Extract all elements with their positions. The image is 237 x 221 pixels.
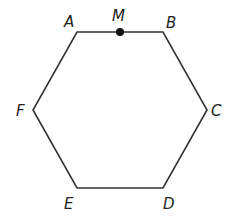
vertex-label-A: A xyxy=(63,13,74,31)
vertex-label-B: B xyxy=(166,14,176,32)
point-M xyxy=(116,28,124,36)
vertex-label-D: D xyxy=(163,195,175,213)
vertex-label-F: F xyxy=(16,102,25,120)
vertex-label-C: C xyxy=(211,102,222,120)
vertex-label-E: E xyxy=(64,195,74,213)
hexagon-diagram: A B C D E F M xyxy=(0,0,237,221)
point-label-M: M xyxy=(112,7,125,25)
hexagon-ABCDEF xyxy=(33,32,207,188)
